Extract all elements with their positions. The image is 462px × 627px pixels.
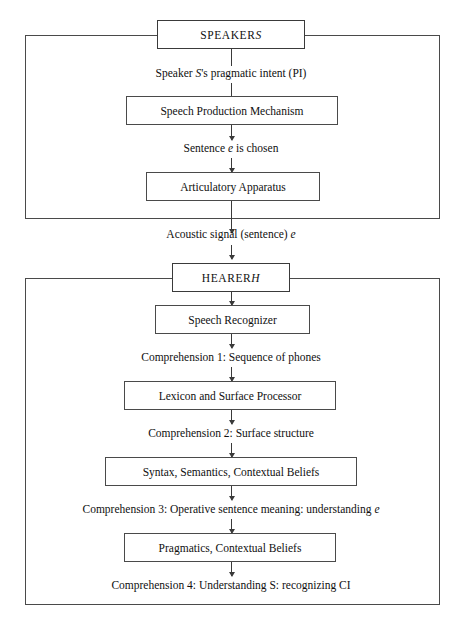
box-pragmatics-label: Pragmatics, Contextual Beliefs: [159, 542, 302, 554]
connector-articulatory-through-frame: [231, 201, 232, 219]
label-pragmatic-intent: Speaker S's pragmatic intent (PI): [0, 67, 462, 79]
label-sentence-chosen: Sentence e is chosen: [0, 142, 462, 154]
box-syntax-semantics-contextual-beliefs: Syntax, Semantics, Contextual Beliefs: [105, 457, 357, 486]
label-acoustic-signal-symbol: e: [291, 228, 296, 240]
arrow-hearer-to-recognizer: [231, 292, 232, 305]
label-acoustic-signal: Acoustic signal (sentence) e: [0, 228, 462, 240]
box-lexicon-surface-processor: Lexicon and Surface Processor: [124, 381, 336, 410]
box-lexicon-label: Lexicon and Surface Processor: [159, 390, 302, 402]
speaker-header-label: SPEAKER: [200, 29, 255, 41]
box-speech-recognizer-label: Speech Recognizer: [188, 314, 276, 326]
box-syntax-label: Syntax, Semantics, Contextual Beliefs: [143, 466, 320, 478]
arrow-comprehension1-to-lexicon: [231, 367, 232, 381]
connector-intent-to-production: [231, 83, 232, 96]
flow-diagram: SPEAKER S Speaker S's pragmatic intent (…: [0, 0, 462, 627]
arrow-production-to-sentence: [231, 125, 232, 140]
arrow-syntax-to-comprehension3: [231, 486, 232, 500]
hearer-header-box: HEARER H: [172, 263, 290, 292]
label-sentence-chosen-post: is chosen: [233, 142, 278, 154]
label-comprehension-2-text: Comprehension 2: Surface structure: [148, 427, 314, 439]
box-speech-recognizer: Speech Recognizer: [155, 305, 310, 334]
box-speech-production-label: Speech Production Mechanism: [160, 105, 303, 117]
arrow-pragmatics-to-comprehension4: [231, 562, 232, 576]
label-comprehension-4-text: Comprehension 4: Understanding S: recogn…: [111, 579, 350, 591]
arrow-sentence-to-articulatory: [231, 158, 232, 172]
label-comprehension-3-symbol: e: [374, 503, 379, 515]
arrow-acoustic-to-hearer: [231, 245, 232, 259]
box-pragmatics-contextual-beliefs: Pragmatics, Contextual Beliefs: [124, 533, 336, 562]
label-comprehension-3-pre: Comprehension 3: Operative sentence mean…: [82, 503, 374, 515]
box-speech-production-mechanism: Speech Production Mechanism: [126, 96, 338, 125]
label-pragmatic-intent-pre: Speaker: [156, 67, 196, 79]
label-sentence-chosen-pre: Sentence: [184, 142, 228, 154]
label-pragmatic-intent-tail: 's pragmatic intent (PI): [201, 67, 306, 79]
label-comprehension-2: Comprehension 2: Surface structure: [0, 427, 462, 439]
hearer-header-symbol: H: [251, 272, 260, 284]
label-acoustic-signal-pre: Acoustic signal (sentence): [166, 228, 290, 240]
hearer-header-label: HEARER: [202, 272, 252, 284]
arrow-comprehension2-to-syntax: [231, 443, 232, 457]
speaker-header-symbol: S: [255, 29, 261, 41]
label-comprehension-1: Comprehension 1: Sequence of phones: [0, 351, 462, 363]
box-articulatory-apparatus: Articulatory Apparatus: [146, 172, 320, 201]
label-comprehension-3: Comprehension 3: Operative sentence mean…: [0, 503, 462, 515]
arrow-recognizer-to-comprehension1: [231, 334, 232, 348]
box-articulatory-label: Articulatory Apparatus: [180, 181, 286, 193]
arrow-lexicon-to-comprehension2: [231, 410, 232, 424]
speaker-header-box: SPEAKER S: [157, 20, 305, 49]
connector-speaker-to-intent: [231, 49, 232, 66]
label-comprehension-1-text: Comprehension 1: Sequence of phones: [141, 351, 321, 363]
arrow-comprehension3-to-pragmatics: [231, 519, 232, 533]
label-comprehension-4: Comprehension 4: Understanding S: recogn…: [0, 579, 462, 591]
